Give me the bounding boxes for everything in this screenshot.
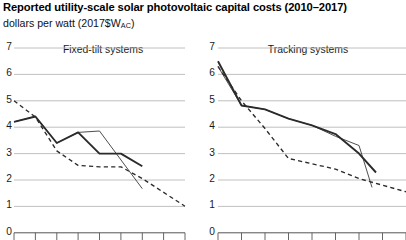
plot-area-tracking xyxy=(200,40,406,240)
ytick-label-7-right: 7 xyxy=(203,41,215,52)
series-dashed-tracking xyxy=(218,67,406,192)
subtitle-suffix: ) xyxy=(131,17,135,29)
ytick-label-0-right: 0 xyxy=(203,226,215,237)
ytick-label-7-left: 7 xyxy=(0,41,12,52)
ytick-label-6-left: 6 xyxy=(0,67,12,78)
x-axis-right xyxy=(218,233,406,240)
x-axis-left xyxy=(14,233,185,240)
plot-svg-tracking xyxy=(200,40,406,240)
ytick-label-2-right: 2 xyxy=(203,173,215,184)
panel-tracking: Tracking systems xyxy=(200,40,406,240)
ytick-label-2-left: 2 xyxy=(0,173,12,184)
series-thick-solid-fixed-tilt xyxy=(14,117,142,167)
ytick-label-4-left: 4 xyxy=(0,120,12,131)
plot-area-fixed-tilt xyxy=(0,40,200,240)
ytick-label-3-right: 3 xyxy=(203,147,215,158)
y-gridlines-left xyxy=(14,48,185,206)
series-thick-solid-tracking xyxy=(218,61,376,172)
ytick-label-1-right: 1 xyxy=(203,199,215,210)
ytick-label-4-right: 4 xyxy=(203,120,215,131)
plot-svg-fixed-tilt xyxy=(0,40,200,240)
figure-title: Reported utility-scale solar photovoltai… xyxy=(3,0,403,14)
chart-figure: Reported utility-scale solar photovoltai… xyxy=(0,0,406,240)
ytick-label-3-left: 3 xyxy=(0,147,12,158)
y-gridlines-right xyxy=(218,48,406,206)
ytick-label-5-right: 5 xyxy=(203,94,215,105)
ytick-label-5-left: 5 xyxy=(0,94,12,105)
figure-subtitle: dollars per watt (2017$WAC) xyxy=(3,17,303,32)
panel-fixed-tilt: Fixed-tilt systems xyxy=(0,40,200,240)
subtitle-prefix: dollars per watt (2017$W xyxy=(3,17,121,29)
subtitle-subscript: AC xyxy=(121,21,131,30)
ytick-label-1-left: 1 xyxy=(0,199,12,210)
ytick-label-0-left: 0 xyxy=(0,226,12,237)
ytick-label-6-right: 6 xyxy=(203,67,215,78)
